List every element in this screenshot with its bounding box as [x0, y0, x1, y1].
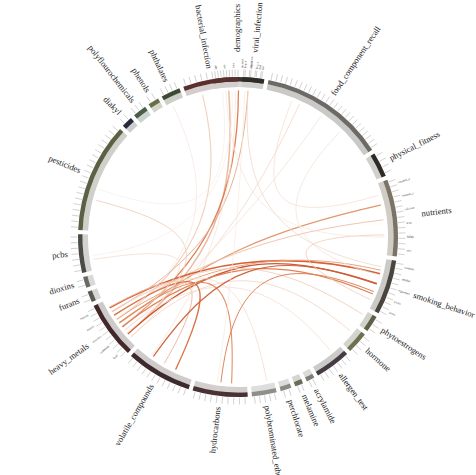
sector-tick	[396, 206, 403, 207]
sector-tick	[92, 155, 98, 158]
sector-tick	[109, 130, 114, 134]
sector-tick	[309, 381, 312, 387]
sector-tick	[147, 97, 151, 103]
ribbon-layer	[93, 91, 384, 383]
sector-tick	[396, 263, 403, 264]
sector-tick	[72, 215, 79, 216]
sector-tick	[218, 71, 219, 78]
sector-tick	[313, 89, 316, 95]
sector-sub-label: calcium	[404, 206, 415, 212]
sector-tick	[289, 389, 291, 396]
sector-tick	[206, 73, 207, 80]
sector-tick	[135, 105, 139, 111]
sector-tick	[382, 164, 388, 167]
sector-label-polybrominated-ethers: polybrominated_ethers	[262, 405, 285, 475]
sector-tick	[260, 396, 261, 403]
chord-ribbon	[115, 220, 383, 315]
sector-tick	[152, 93, 156, 99]
sector-tick	[290, 79, 292, 86]
sector-sub-label: smoker	[401, 277, 411, 283]
sector-tick	[389, 180, 396, 182]
sector-tick	[260, 71, 261, 78]
sector-tick	[398, 249, 405, 250]
sector-tick	[301, 384, 304, 390]
sector-tick	[96, 322, 102, 326]
sector-tick	[392, 283, 399, 285]
sector-tick	[255, 397, 256, 404]
chord-ribbon	[152, 91, 235, 355]
sector-tick	[285, 77, 287, 84]
sector-tick	[376, 320, 382, 324]
sector-label-furans: furans	[57, 295, 81, 313]
sector-tick	[170, 84, 173, 90]
sector-tick	[326, 97, 330, 103]
sector-label-hydrocarbons: hydrocarbons	[207, 406, 222, 454]
sector-label-pesticides: pesticides	[47, 153, 83, 175]
sector-label-physical-fitness: physical_fitness	[388, 129, 442, 163]
sector-tick	[87, 165, 93, 168]
sector-label-nutrients: nutrients	[421, 205, 453, 219]
sector-sub-label: race	[231, 62, 235, 68]
sector-tick	[380, 158, 386, 161]
sector-tick	[321, 94, 325, 100]
chord-ribbon	[125, 287, 330, 350]
sector-tick	[117, 348, 122, 353]
sector-tick	[121, 352, 126, 357]
sector-tick	[364, 337, 369, 341]
chord-ribbon	[247, 91, 381, 266]
sector-tick	[215, 71, 216, 78]
sector-tick	[210, 395, 211, 402]
sector-tick	[397, 211, 404, 212]
sector-tick	[284, 391, 286, 398]
sector-tick	[120, 119, 125, 124]
sector-tick	[160, 89, 163, 95]
sector-tick	[222, 397, 223, 404]
sector-tick	[131, 108, 135, 113]
sector-tick	[95, 149, 101, 153]
sector-tick	[128, 358, 133, 363]
sector-tick	[352, 120, 357, 125]
sector-sub-label: years	[388, 310, 396, 317]
sector-tick	[77, 280, 84, 282]
sector-tick	[395, 200, 402, 202]
sector-tick	[308, 87, 311, 93]
sector-tick	[397, 217, 404, 218]
sector-tick	[73, 209, 80, 210]
sector-tick	[313, 379, 316, 385]
sector-label-pcbs: pcbs	[52, 249, 69, 261]
sector-tick	[183, 79, 185, 86]
sector-tick	[91, 313, 97, 316]
sector-tick	[106, 336, 112, 340]
chord-ribbon	[226, 92, 384, 237]
sector-tick	[162, 380, 165, 386]
sector-sub-label: lead	[112, 353, 119, 360]
sector-tick	[223, 70, 224, 77]
chord-diagram-svg: agesexraceincomeeducationbmivitamin_avit…	[0, 0, 476, 475]
sector-sub-label: barium	[79, 313, 89, 321]
sector-tick	[105, 135, 111, 139]
sector-sub-label: folate	[407, 235, 415, 239]
sector-sub-label: cadmium	[99, 344, 111, 355]
sector-tick	[352, 350, 357, 355]
sector-tick	[398, 254, 405, 255]
sector-tick	[80, 181, 87, 183]
sector-tick	[276, 74, 278, 81]
sector-tick	[109, 340, 114, 344]
sector-label-hormone: hormone	[363, 346, 393, 374]
sector-tick	[393, 278, 400, 280]
chord-diagram-figure: agesexraceincomeeducationbmivitamin_avit…	[0, 0, 476, 475]
sector-tick	[78, 187, 85, 189]
sector-layer	[78, 77, 398, 397]
sector-tick	[82, 176, 89, 179]
sector-label-food-component-recall: food_component_recall	[329, 24, 383, 98]
sector-sub-label: mercury	[92, 334, 103, 344]
sector-sub-label: hsv	[261, 65, 266, 70]
sector-tick	[200, 74, 202, 81]
sector-tick	[74, 270, 81, 271]
sector-sub-label: arsenic	[86, 324, 96, 332]
sector-label-polyflourochemicals: polyflourochemicals	[86, 43, 138, 105]
sector-tick	[84, 300, 90, 303]
sector-tick	[371, 144, 377, 148]
sector-tick	[359, 127, 364, 132]
sector-tick	[269, 394, 270, 401]
